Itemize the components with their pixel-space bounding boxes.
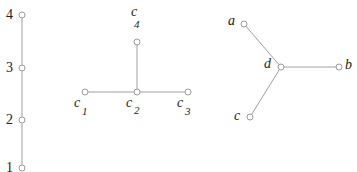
node-a <box>241 21 247 27</box>
node-c1 <box>82 89 88 95</box>
label-3: 3 <box>6 61 13 75</box>
label-a: a <box>228 14 235 28</box>
graph-drawing <box>0 0 357 172</box>
graph-diagram: 4 3 2 1 c 4 c 1 c 2 c 3 a d b c <box>0 0 357 172</box>
label-c1: c <box>74 96 80 110</box>
node-c2 <box>134 89 140 95</box>
label-d: d <box>264 57 271 71</box>
label-c4-sub: 4 <box>134 19 140 30</box>
label-c2-sub: 2 <box>134 105 140 116</box>
label-c2: c <box>126 96 132 110</box>
node-4 <box>19 12 25 18</box>
node-c4 <box>134 39 140 45</box>
label-b: b <box>345 58 352 72</box>
node-d <box>278 64 284 70</box>
node-1 <box>19 165 25 171</box>
label-2: 2 <box>6 113 13 127</box>
node-3 <box>19 65 25 71</box>
label-c4: c <box>131 5 137 19</box>
label-c3: c <box>177 96 183 110</box>
edge-a-d <box>244 24 281 67</box>
node-c <box>247 114 253 120</box>
node-b <box>336 64 342 70</box>
label-4: 4 <box>6 8 13 22</box>
label-c3-sub: 3 <box>185 106 191 117</box>
node-2 <box>19 117 25 123</box>
edge-d-c <box>250 67 281 117</box>
label-1: 1 <box>6 161 13 172</box>
label-c: c <box>234 109 240 123</box>
node-c3 <box>185 89 191 95</box>
label-c1-sub: 1 <box>82 106 88 117</box>
